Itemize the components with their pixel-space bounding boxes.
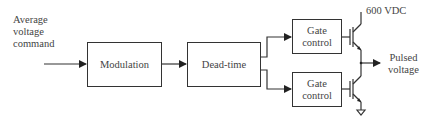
supply-voltage-label: 600 VDC bbox=[366, 5, 406, 17]
dead-time-block: Dead-time bbox=[187, 42, 261, 87]
gate-control-top-block: Gate control bbox=[292, 19, 342, 54]
modulation-block: Modulation bbox=[87, 42, 162, 87]
input-label: Average voltage command bbox=[13, 14, 54, 50]
gate-control-bottom-block: Gate control bbox=[292, 72, 342, 107]
output-label: Pulsed voltage bbox=[388, 52, 419, 76]
